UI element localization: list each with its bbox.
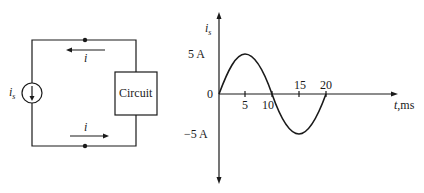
x-axis-arrow-icon (391, 92, 398, 97)
x-axis-label: t,ms (394, 99, 414, 111)
x-tick-5: 5 (242, 99, 248, 111)
source-label: is (9, 86, 15, 103)
y-axis-down-arrow-icon (217, 177, 222, 184)
source-label-sub: s (12, 92, 15, 101)
y-axis-label: is (205, 22, 211, 39)
y-tick-5: 5 A (188, 48, 205, 60)
x-axis-unit: ,ms (397, 98, 414, 112)
circuit-box-label: Circuit (119, 87, 152, 99)
top-node-dot (83, 38, 87, 42)
x-tick-20: 20 (320, 79, 332, 91)
bottom-node-dot (83, 144, 87, 148)
y-tick-neg5: −5 A (184, 128, 208, 140)
y-tick-0: 0 (207, 88, 213, 100)
y-axis-label-sub: s (208, 28, 211, 37)
y-axis-up-arrow-icon (217, 12, 222, 19)
top-current-label: i (84, 52, 87, 64)
bottom-current-label: i (84, 121, 87, 133)
x-tick-10: 10 (262, 99, 274, 111)
x-tick-15: 15 (294, 79, 306, 91)
